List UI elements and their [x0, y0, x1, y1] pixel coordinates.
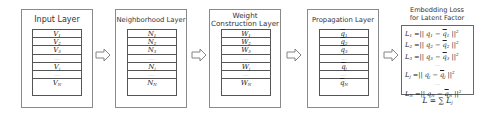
input-layer-table: V1 V2 V3 ··· Vj ··· VN [32, 29, 82, 96]
weight-construction-layer-title-line2: Construction Layer [210, 20, 280, 29]
table-row: WN [222, 79, 270, 87]
table-row: NN [128, 79, 176, 87]
table-row: Wj [222, 63, 270, 71]
loss-title-line2: for Latent Factor [395, 14, 479, 22]
table-row: ··· [128, 71, 176, 79]
table-row: V1 [33, 30, 81, 38]
arrow-right-icon [191, 48, 207, 62]
neighborhood-layer-box: Neighborhood Layer N1 N2 N3 ··· Nj ··· N… [115, 9, 187, 108]
arrow-right-icon [383, 48, 399, 62]
table-row: W2 [222, 38, 270, 46]
table-row: q3 [320, 46, 368, 54]
table-row: N3 [128, 46, 176, 54]
table-row: ··· [222, 71, 270, 79]
weight-construction-layer-box: Weight Construction Layer W1 W2 W3 ··· W… [209, 9, 281, 108]
table-row: ··· [320, 71, 368, 79]
neighborhood-layer-title: Neighborhood Layer [116, 16, 186, 25]
table-row: ··· [128, 55, 176, 63]
table-row: V3 [33, 46, 81, 54]
arrow-right-icon [95, 48, 111, 62]
table-row: V2 [33, 38, 81, 46]
propagation-layer-table: q1 q2 q3 ··· qj ··· qN [319, 29, 369, 96]
weight-construction-layer-table: W1 W2 W3 ··· Wj ··· WN [221, 29, 271, 96]
table-row: ··· [33, 55, 81, 63]
table-row: W1 [222, 30, 270, 38]
loss-equation-ellipsis: ··· [405, 81, 470, 88]
table-row: N2 [128, 38, 176, 46]
loss-equation: Lj =|| qj − qj ||2 [405, 69, 470, 80]
table-row: qj [320, 63, 368, 71]
table-row: VN [33, 79, 81, 87]
table-row: q1 [320, 30, 368, 38]
table-row: N1 [128, 30, 176, 38]
table-row: Nj [128, 63, 176, 71]
loss-equation-ellipsis: ··· [405, 62, 470, 69]
table-row: ··· [33, 71, 81, 79]
loss-equation: L2 =|| q2 − q2 ||2 [405, 39, 470, 50]
table-row: Vj [33, 63, 81, 71]
input-layer-title: Input Layer [22, 16, 92, 25]
table-row: W3 [222, 46, 270, 54]
total-loss-equation: L = ∑ Lj [401, 96, 474, 105]
propagation-layer-box: Propagation Layer q1 q2 q3 ··· qj ··· qN [307, 9, 379, 108]
neighborhood-layer-table: N1 N2 N3 ··· Nj ··· NN [127, 29, 177, 96]
table-row: qN [320, 79, 368, 87]
loss-equations-box: L1 =|| q1 − q1 ||2 L2 =|| q2 − q2 ||2 L3… [401, 25, 474, 95]
table-row: ··· [222, 55, 270, 63]
table-row: ··· [320, 55, 368, 63]
loss-title-line1: Embedding Loss [395, 6, 479, 14]
propagation-layer-title: Propagation Layer [308, 16, 378, 25]
input-layer-box: Input Layer V1 V2 V3 ··· Vj ··· VN [21, 9, 93, 108]
arrow-right-icon [286, 48, 302, 62]
loss-equation: L1 =|| q1 − q1 ||2 [405, 28, 470, 39]
loss-equation: L3 =|| q3 − q3 ||2 [405, 51, 470, 62]
